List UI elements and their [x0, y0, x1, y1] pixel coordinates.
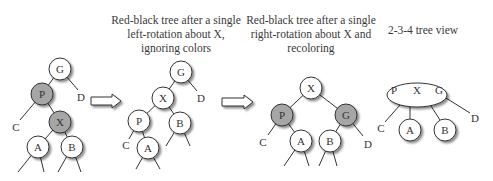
- tree-node-b: B: [319, 130, 341, 152]
- subtree-label-d: D: [197, 92, 205, 104]
- node-label: G: [177, 66, 185, 78]
- tree-node-a: A: [399, 119, 421, 141]
- subtree-label-c: C: [12, 121, 19, 133]
- tree-node-x: X: [49, 111, 71, 133]
- node-label: B: [68, 141, 75, 153]
- subtree-label-c: C: [122, 139, 129, 151]
- subtree-label-d: D: [364, 138, 372, 150]
- node-label: G: [342, 109, 350, 121]
- arrow-2-icon: [222, 95, 253, 109]
- supernode: PXG: [387, 83, 447, 107]
- tree-node-g: G: [170, 61, 192, 83]
- node-label: X: [159, 92, 167, 104]
- node-label: G: [56, 63, 64, 75]
- node-label: B: [326, 135, 333, 147]
- 234-tree-nodes: PXGABCD: [377, 83, 479, 141]
- tree-node-x: X: [300, 77, 322, 99]
- tree-node-g: G: [49, 58, 71, 80]
- tree-node-a: A: [137, 137, 159, 159]
- node-label: A: [406, 124, 414, 136]
- subtree-label-d: D: [77, 91, 85, 103]
- tree-node-p: P: [31, 83, 53, 105]
- supernode-key: P: [391, 84, 397, 96]
- node-label: A: [297, 135, 305, 147]
- tree-node-a: A: [290, 130, 312, 152]
- node-label: P: [136, 115, 142, 127]
- tree-node-a: A: [27, 136, 49, 158]
- subtree-label-c: C: [259, 136, 266, 148]
- supernode-key: X: [413, 84, 421, 96]
- tree-node-p: P: [128, 110, 150, 132]
- node-label: P: [279, 109, 285, 121]
- node-label: B: [176, 117, 183, 129]
- node-label: X: [307, 82, 315, 94]
- supernode-key: G: [435, 84, 443, 96]
- node-label: X: [56, 116, 64, 128]
- tree-node-x: X: [152, 87, 174, 109]
- after-right-rotation-edges: [268, 88, 363, 166]
- tree-node-p: P: [271, 104, 293, 126]
- tree-node-b: B: [169, 112, 191, 134]
- original-tree-nodes: GPXABDC: [12, 58, 85, 158]
- tree-node-b: B: [61, 136, 83, 158]
- nodes-layer: GPXABDCGXPBADCXPGABCDPXGABCD: [12, 58, 479, 159]
- after-right-rotation-nodes: XPGABCD: [259, 77, 372, 152]
- subtree-label-d: D: [471, 112, 479, 124]
- subtree-label-c: C: [377, 122, 384, 134]
- node-label: P: [39, 88, 45, 100]
- node-label: B: [441, 124, 448, 136]
- arrow-1-icon: [91, 94, 121, 108]
- node-label: A: [144, 142, 152, 154]
- after-left-rotation-nodes: GXPBADC: [122, 61, 205, 159]
- tree-node-g: G: [335, 104, 357, 126]
- diagram-canvas: GPXABDCGXPBADCXPGABCDPXGABCD: [0, 0, 493, 181]
- node-label: A: [34, 141, 42, 153]
- tree-node-b: B: [434, 119, 456, 141]
